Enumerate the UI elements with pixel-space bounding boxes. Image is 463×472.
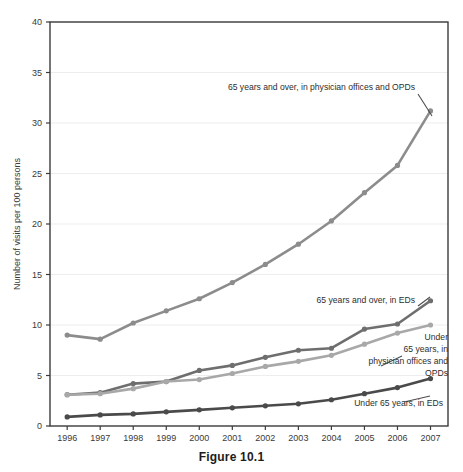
ann-65-over-eds: 65 years and over, in EDs (317, 295, 415, 305)
data-point (197, 368, 202, 373)
data-point (98, 391, 103, 396)
x-tick-label: 2005 (354, 433, 374, 443)
data-point (131, 411, 136, 416)
data-point (197, 296, 202, 301)
data-point (263, 364, 268, 369)
y-tick-label: 30 (32, 118, 42, 128)
data-point (98, 337, 103, 342)
data-point (362, 391, 367, 396)
data-point (230, 363, 235, 368)
y-tick-label: 15 (32, 270, 42, 280)
figure-container: 0510152025303540 19961997199819992000200… (0, 0, 463, 472)
data-point (164, 379, 169, 384)
data-point (362, 326, 367, 331)
data-point (428, 298, 433, 303)
data-point (131, 386, 136, 391)
data-point (197, 377, 202, 382)
x-tick-label: 2002 (255, 433, 275, 443)
x-tick-label: 1996 (57, 433, 77, 443)
ann-under-65-offices-l3: physician offices and (368, 356, 448, 366)
y-tick-label: 40 (32, 17, 42, 27)
data-point (296, 242, 301, 247)
ann-under-65-eds: Under 65 years, in EDs (354, 398, 443, 408)
y-axis: 0510152025303540 (32, 17, 50, 431)
ann-under-65-offices-l1: Under (425, 332, 449, 342)
x-tick-label: 2000 (189, 433, 209, 443)
x-tick-label: 2004 (321, 433, 341, 443)
data-point (65, 333, 70, 338)
data-point (230, 371, 235, 376)
y-tick-label: 0 (37, 421, 42, 431)
figure-caption: Figure 10.1 (0, 450, 463, 464)
x-tick-label: 2001 (222, 433, 242, 443)
x-tick-label: 1999 (156, 433, 176, 443)
data-point (131, 381, 136, 386)
line-chart: 0510152025303540 19961997199819992000200… (0, 0, 463, 472)
data-point (296, 359, 301, 364)
ann-65-over-offices: 65 years and over, in physician offices … (228, 82, 415, 92)
data-point (197, 407, 202, 412)
data-point (428, 322, 433, 327)
y-tick-label: 5 (37, 371, 42, 381)
data-point (329, 353, 334, 358)
y-axis-title: Number of visits per 100 persons (12, 157, 22, 290)
data-point (362, 190, 367, 195)
x-tick-label: 2007 (420, 433, 440, 443)
data-point (296, 401, 301, 406)
data-point (263, 403, 268, 408)
data-point (296, 348, 301, 353)
ann-under-65-offices-l2: 65 years, in (404, 344, 449, 354)
data-point (395, 163, 400, 168)
x-tick-label: 1998 (123, 433, 143, 443)
data-point (395, 321, 400, 326)
data-point (362, 342, 367, 347)
data-point (395, 385, 400, 390)
data-point (164, 409, 169, 414)
data-point (329, 397, 334, 402)
data-point (98, 412, 103, 417)
data-point (65, 392, 70, 397)
data-point (395, 330, 400, 335)
x-tick-label: 2006 (387, 433, 407, 443)
data-point (230, 405, 235, 410)
data-point (263, 355, 268, 360)
data-point (131, 320, 136, 325)
x-axis: 1996199719981999200020012002200320042005… (57, 426, 440, 443)
ann-under-65-offices-l4: OPDs (425, 368, 448, 378)
data-point (230, 280, 235, 285)
y-tick-label: 25 (32, 169, 42, 179)
y-tick-label: 35 (32, 68, 42, 78)
x-tick-label: 1997 (90, 433, 110, 443)
data-point (164, 308, 169, 313)
data-point (329, 346, 334, 351)
data-point (65, 414, 70, 419)
data-point (329, 218, 334, 223)
x-tick-label: 2003 (288, 433, 308, 443)
y-tick-label: 10 (32, 320, 42, 330)
data-point (263, 262, 268, 267)
y-tick-label: 20 (32, 219, 42, 229)
